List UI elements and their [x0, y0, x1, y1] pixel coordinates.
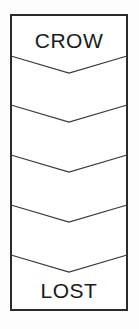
top-band-label: CROW [35, 29, 104, 52]
chevron-stack-figure: CROW LOST [0, 0, 139, 329]
figure-canvas: CROW LOST [0, 0, 139, 329]
bottom-band-label: LOST [41, 279, 98, 302]
panel-outline [11, 15, 127, 310]
